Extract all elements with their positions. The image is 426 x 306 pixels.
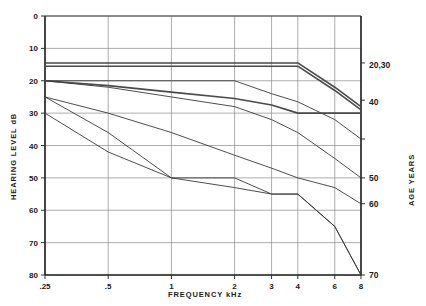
x-tick-label: 4	[296, 282, 301, 291]
series-label-70: 70	[369, 270, 379, 280]
x-tick-label: .25	[39, 282, 51, 291]
y-tick-label: 50	[29, 174, 38, 183]
y-tick-label: 80	[29, 271, 38, 280]
series-label-20-30: 20,30	[369, 60, 391, 70]
y-tick-label: 60	[29, 206, 38, 215]
chart-svg: 01020304050607080 .25.5123468 20,3040506…	[0, 0, 426, 306]
x-tick-label: 6	[333, 282, 338, 291]
chart-background	[0, 0, 426, 306]
series-label-50: 50	[369, 173, 379, 183]
x-tick-label: 8	[359, 282, 364, 291]
hearing-level-chart: 01020304050607080 .25.5123468 20,3040506…	[0, 0, 426, 306]
y-axis-title: HEARING LEVEL dB	[9, 113, 18, 200]
y-axis-tick-labels: 01020304050607080	[29, 12, 38, 280]
x-axis-title: FREQUENCY kHz	[168, 290, 242, 299]
series-label-40: 40	[369, 97, 379, 107]
y-tick-label: 20	[29, 77, 38, 86]
series-label-60: 60	[369, 199, 379, 209]
y-tick-label: 10	[29, 44, 38, 53]
y-tick-label: 0	[34, 12, 39, 21]
y-tick-label: 40	[29, 142, 38, 151]
y-tick-label: 30	[29, 109, 38, 118]
x-tick-label: 3	[269, 282, 274, 291]
x-tick-label: .5	[105, 282, 112, 291]
y-tick-label: 70	[29, 239, 38, 248]
right-axis-title: AGE YEARS	[407, 154, 416, 206]
